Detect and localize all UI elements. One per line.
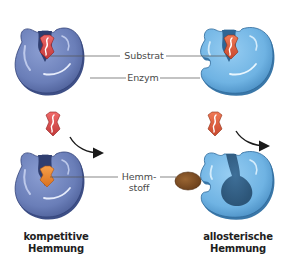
caption-competitive-inhibition: kompetitive Hemmung [18,231,94,255]
inhibitor-label: Hemm- stoff [118,171,160,193]
caption-competitive-line1: kompetitive [18,231,94,243]
caption-competitive-line2: Hemmung [18,243,94,255]
enzyme-competitive-bottom-icon [15,152,84,220]
curved-arrow-left-icon [70,137,100,153]
inhibitor-label-line2: stoff [118,182,160,193]
inhibitor-allosteric-bound-icon [175,172,201,190]
diagram-graphics [0,0,293,264]
enzyme-label: Enzym [126,72,160,83]
caption-allosteric-line2: Hemmung [195,243,281,255]
enzyme-inhibition-diagram: Substrat Enzym Hemm- stoff kompetitive H… [0,0,293,264]
caption-allosteric-line1: allosterische [195,231,281,243]
enzyme-allosteric-bottom-icon [201,152,275,220]
substrate-free-right-icon [208,112,222,136]
substrate-free-left-icon [46,112,60,136]
substrate-label: Substrat [122,50,166,61]
curved-arrow-right-icon [236,131,266,146]
inhibitor-label-line1: Hemm- [118,171,160,182]
caption-allosteric-inhibition: allosterische Hemmung [195,231,281,255]
